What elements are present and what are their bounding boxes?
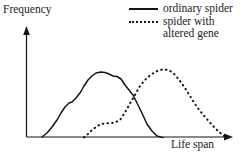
series-line-ordinary-spider: [42, 72, 163, 138]
data-series-group: [42, 70, 224, 138]
right-arrow-axis-icon: [224, 134, 233, 141]
up-arrow-axis-icon: [23, 26, 30, 35]
series-line-altered-gene-spider: [84, 70, 224, 138]
figure-container: Frequency Life span ordinary spider spid…: [0, 0, 241, 153]
chart-plot-area: [0, 0, 241, 153]
